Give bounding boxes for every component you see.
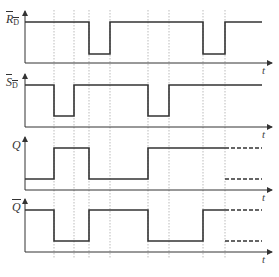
time-axis-label: t — [262, 128, 265, 140]
undefined-state-dashes — [225, 210, 262, 241]
signal-label-RD_bar: RD — [6, 13, 19, 27]
time-axis-label: t — [262, 253, 265, 265]
signal-label-Q_bar: Q — [12, 201, 21, 213]
waveforms — [25, 22, 262, 241]
time-axis-label: t — [262, 64, 265, 76]
signal-label-Q: Q — [12, 139, 21, 151]
vertical-guide-lines — [54, 10, 225, 258]
waveform-SD_bar — [25, 85, 262, 116]
waveform-RD_bar — [25, 22, 262, 54]
waveform-Q_bar — [25, 210, 225, 241]
signal-label-SD_bar: SD — [6, 76, 18, 90]
timing-diagram — [0, 0, 279, 277]
undefined-state-dashes — [225, 148, 262, 179]
waveform-Q — [25, 148, 225, 179]
time-axis-label: t — [262, 191, 265, 203]
